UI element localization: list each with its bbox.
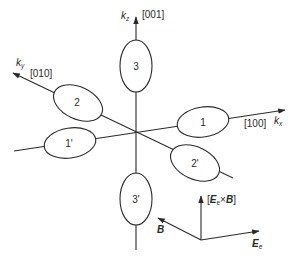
valley-label: 3 xyxy=(133,61,139,72)
field-frame: [Ee×B] B Ee xyxy=(157,194,263,250)
kx-direction: [100] xyxy=(244,118,266,129)
valley-1: 1 xyxy=(175,103,231,141)
kx-label: [100] kx xyxy=(244,115,283,129)
valley-diagram: 3 2 1 1' 2' 3' kz [001] ky [010] [100] k… xyxy=(0,0,293,258)
b-field-label: B xyxy=(157,224,164,235)
valley-label: 2' xyxy=(191,158,199,169)
valley-2: 2 xyxy=(48,78,109,129)
valley-label: 1 xyxy=(200,117,206,128)
e-field-label: Ee xyxy=(252,238,263,250)
ky-direction: [010] xyxy=(30,68,52,79)
exb-label: [Ee×B] xyxy=(207,194,236,206)
ky-label: ky [010] xyxy=(16,57,52,79)
valley-label: 3' xyxy=(132,194,140,205)
kz-label: kz [001] xyxy=(121,9,164,22)
valley-label: 2 xyxy=(74,97,80,108)
kz-direction: [001] xyxy=(142,9,164,20)
valley-label: 1' xyxy=(65,138,73,149)
valley-3: 3 xyxy=(120,40,152,92)
svg-text:kx: kx xyxy=(274,115,283,127)
valley-1-prime: 1' xyxy=(42,124,98,162)
svg-text:ky: ky xyxy=(16,57,25,70)
valley-3-prime: 3' xyxy=(120,173,152,225)
svg-text:kz: kz xyxy=(121,10,130,22)
valley-2-prime: 2' xyxy=(165,138,226,189)
